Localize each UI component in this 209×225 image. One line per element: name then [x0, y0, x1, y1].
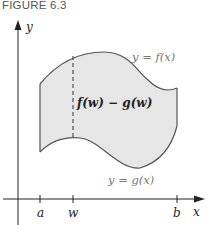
upper-curve-label: y = f(x): [131, 50, 175, 64]
tick-label-w: w: [68, 206, 79, 220]
tick-label-a: a: [37, 206, 44, 220]
x-axis-label: x: [193, 205, 200, 219]
tick-label-b: b: [173, 206, 181, 220]
y-axis-arrow-icon: [15, 20, 22, 30]
shaded-region: [40, 52, 177, 168]
y-axis-label: y: [25, 20, 33, 34]
lower-curve-label: y = g(x): [107, 173, 154, 187]
x-axis-arrow-icon: [194, 196, 205, 203]
figure-diagram: y x a w b y = f(x) y = g(x) f(w) − g(w): [0, 0, 209, 225]
difference-label: f(w) − g(w): [76, 96, 152, 110]
